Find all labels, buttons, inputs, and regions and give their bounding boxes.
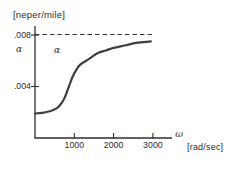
attenuation-vs-frequency-chart: [neper/mile] α α ω [rad/sec] 10002000300…	[0, 0, 225, 172]
axes	[31, 26, 172, 139]
y-tick-label-.004: .004	[4, 82, 31, 91]
y-tick-label-.008: .008	[4, 31, 31, 40]
x-axis-unit-label: [rad/sec]	[187, 143, 223, 152]
x-tick-label-2000: 2000	[101, 141, 127, 150]
x-tick-label-1000: 1000	[61, 141, 87, 150]
alpha-axis-label: α	[13, 45, 25, 54]
omega-axis-label: ω	[172, 129, 186, 139]
y-axis-unit-label: [neper/mile]	[13, 10, 65, 20]
alpha-curve-label: α	[51, 46, 63, 55]
x-tick-label-3000: 3000	[140, 141, 166, 150]
